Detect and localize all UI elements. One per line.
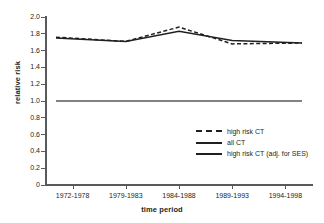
legend-swatch-solid-icon — [196, 149, 222, 158]
chart-legend: high risk CTall CThigh risk CT (adj. for… — [196, 126, 322, 159]
relative-risk-line-chart: relative risk 00.20.40.60.81.01.21.41.61… — [0, 0, 324, 223]
series-layer — [0, 0, 324, 223]
series-line — [56, 31, 302, 43]
x-axis-title: time period — [0, 205, 324, 214]
legend-swatch-dashed-icon — [196, 127, 222, 136]
legend-item[interactable]: high risk CT (adj. for SES) — [196, 148, 322, 159]
legend-label: high risk CT — [227, 128, 264, 135]
legend-label: all CT — [227, 139, 245, 146]
legend-item[interactable]: high risk CT — [196, 126, 322, 137]
legend-item[interactable]: all CT — [196, 137, 322, 148]
legend-label: high risk CT (adj. for SES) — [227, 150, 308, 157]
legend-swatch-solid-icon — [196, 138, 222, 147]
